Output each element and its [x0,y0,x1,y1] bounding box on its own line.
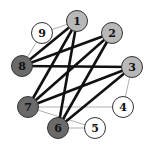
node-2: 2 [102,23,123,44]
node-label: 9 [38,27,46,40]
node-label: 2 [108,27,116,40]
node-label: 4 [119,101,127,114]
graph-diagram: 123456789 [0,0,151,154]
node-5: 5 [85,118,106,139]
node-4: 4 [113,97,134,118]
node-7: 7 [18,97,39,118]
node-6: 6 [48,118,69,139]
node-1: 1 [67,11,88,32]
thick-edge-7-2 [28,33,112,107]
node-8: 8 [12,56,33,77]
node-label: 7 [24,101,32,114]
node-label: 6 [54,122,62,135]
node-9: 9 [32,23,53,44]
node-label: 3 [128,61,136,74]
node-label: 1 [73,15,81,28]
thick-edge-8-3 [22,66,132,67]
node-label: 8 [18,60,26,73]
node-label: 5 [91,122,99,135]
node-3: 3 [122,57,143,78]
